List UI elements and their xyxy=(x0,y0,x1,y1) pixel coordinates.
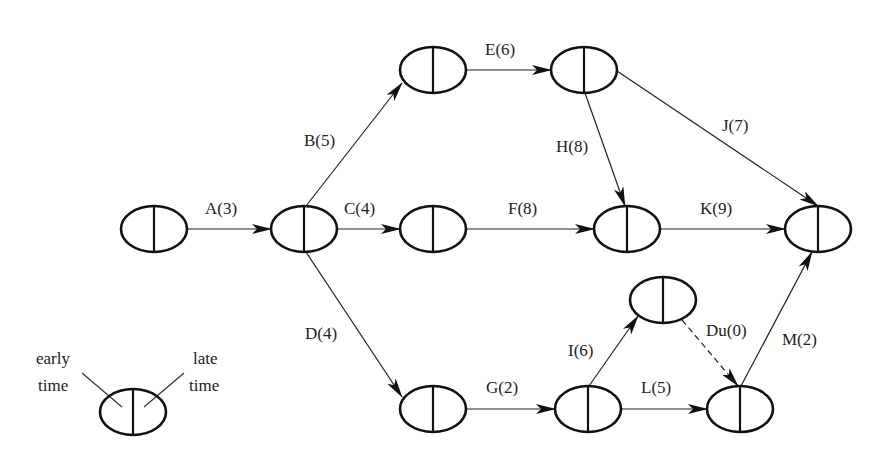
label-G: G(2) xyxy=(486,378,518,397)
edge-M xyxy=(741,252,812,386)
legend: early time late time xyxy=(36,349,219,435)
node-9 xyxy=(555,386,621,432)
label-C: C(4) xyxy=(344,199,375,218)
label-D: D(4) xyxy=(305,324,337,343)
label-M: M(2) xyxy=(782,330,817,349)
legend-late-line2: time xyxy=(189,376,219,395)
legend-node xyxy=(100,389,166,435)
node-1 xyxy=(121,206,187,252)
node-4 xyxy=(551,47,617,93)
node-8 xyxy=(400,386,466,432)
node-5 xyxy=(400,206,466,252)
node-7 xyxy=(785,206,851,252)
label-B: B(5) xyxy=(304,131,335,150)
label-J: J(7) xyxy=(722,116,748,135)
legend-early-line2: time xyxy=(38,376,68,395)
node-11 xyxy=(707,386,773,432)
label-H: H(8) xyxy=(556,137,588,156)
network-diagram: A(3) B(5) C(4) D(4) E(6) F(8) G(2) H(8) … xyxy=(0,0,879,463)
label-Du: Du(0) xyxy=(706,321,747,340)
legend-early-line1: early xyxy=(36,349,70,368)
label-A: A(3) xyxy=(205,199,237,218)
label-I: I(6) xyxy=(568,341,593,360)
label-F: F(8) xyxy=(508,199,537,218)
node-2 xyxy=(271,206,337,252)
nodes xyxy=(121,47,851,432)
label-L: L(5) xyxy=(641,378,671,397)
edge-J xyxy=(617,71,818,206)
legend-late-line1: late xyxy=(193,349,218,368)
edge-I xyxy=(589,316,638,386)
label-E: E(6) xyxy=(485,40,515,59)
node-10 xyxy=(630,277,696,323)
node-3 xyxy=(400,47,466,93)
label-K: K(9) xyxy=(700,199,732,218)
node-6 xyxy=(594,206,660,252)
edge-H xyxy=(585,93,625,206)
